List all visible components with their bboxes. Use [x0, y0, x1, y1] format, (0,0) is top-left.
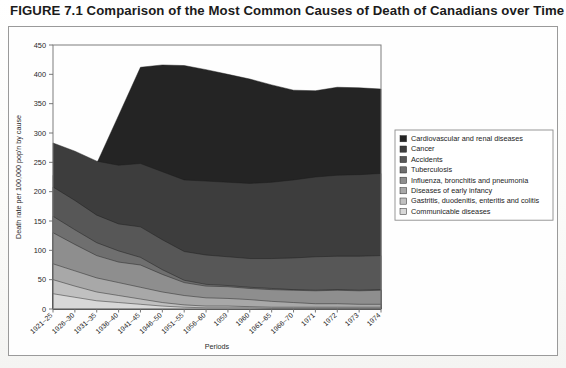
legend-swatch	[400, 208, 407, 214]
legend-swatch	[400, 136, 407, 142]
x-tick-label: 1966–70	[269, 311, 294, 335]
y-axis-title: Death rate per 100,000 pop'n by cause	[14, 115, 23, 239]
legend-swatch	[400, 177, 407, 183]
x-tick-label: 1960	[234, 311, 250, 327]
x-tick-label: 1931–35	[72, 311, 97, 335]
x-axis-title: Periods	[205, 342, 230, 351]
x-tick-label: 1941–45	[116, 311, 141, 335]
y-axis: 050100150200250300350400450	[34, 41, 53, 314]
x-tick-label: 1973	[344, 311, 360, 327]
x-axis: 1921–251926–301931–351936–401941–451946–…	[29, 309, 382, 335]
y-tick-label: 150	[34, 217, 46, 226]
x-tick-label: 1974	[365, 311, 381, 327]
figure-frame: 050100150200250300350400450 1921–251926–…	[8, 26, 558, 356]
x-tick-label: 1946–50	[138, 311, 163, 335]
legend-swatch	[400, 188, 407, 194]
x-tick-label: 1971	[300, 311, 316, 327]
legend-label: Accidents	[411, 155, 443, 164]
legend-label: Influenza, bronchitis and pneumonia	[411, 176, 529, 185]
y-tick-label: 200	[34, 187, 46, 196]
x-tick-label: 1956–60	[182, 311, 207, 335]
x-tick-label: 1961–65	[247, 311, 272, 335]
legend-swatch	[400, 146, 407, 152]
figure-root: FIGURE 7.1 Comparison of the Most Common…	[0, 0, 566, 368]
stacked-area-chart: 050100150200250300350400450 1921–251926–…	[9, 27, 557, 355]
x-tick-label: 1921–25	[29, 311, 54, 335]
chart-legend: Cardiovascular and renal diseasesCancerA…	[395, 130, 553, 220]
legend-label: Gastritis, duodenitis, enteritis and col…	[411, 196, 540, 205]
y-tick-label: 0	[42, 305, 46, 314]
y-tick-label: 300	[34, 129, 46, 138]
x-tick-label: 1951–55	[160, 311, 185, 335]
x-tick-label: 1926–30	[51, 311, 76, 335]
legend-swatch	[400, 167, 407, 173]
legend-label: Cancer	[411, 144, 435, 153]
figure-title: FIGURE 7.1 Comparison of the Most Common…	[10, 3, 556, 18]
legend-label: Cardiovascular and renal diseases	[411, 134, 523, 143]
y-tick-label: 50	[38, 275, 46, 284]
x-tick-label: 1959	[212, 311, 228, 327]
plot-area-bands	[53, 65, 381, 309]
y-tick-label: 400	[34, 70, 46, 79]
legend-label: Diseases of early infancy	[411, 186, 492, 195]
legend-swatch	[400, 198, 407, 204]
legend-swatch	[400, 156, 407, 162]
x-tick-label: 1972	[322, 311, 338, 327]
y-tick-label: 250	[34, 158, 46, 167]
legend-label: Communicable diseases	[411, 207, 491, 216]
y-tick-label: 100	[34, 246, 46, 255]
y-tick-label: 450	[34, 41, 46, 50]
y-tick-label: 350	[34, 99, 46, 108]
legend-label: Tuberculosis	[411, 165, 452, 174]
x-tick-label: 1936–40	[94, 311, 119, 335]
